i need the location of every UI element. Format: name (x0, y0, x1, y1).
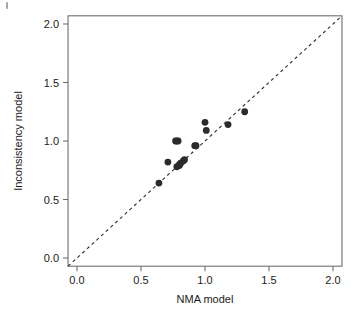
x-tick-label: 0.5 (133, 274, 148, 286)
plot-background (0, 0, 363, 312)
x-tick-label: 0.0 (69, 274, 84, 286)
scatter-plot-figure: 0.00.51.01.52.0 0.00.51.01.52.0 NMA mode… (0, 0, 363, 312)
x-tick-label: 1.0 (197, 274, 212, 286)
data-point (203, 127, 210, 134)
data-point (225, 121, 232, 128)
scan-artifact-mark (6, 2, 8, 9)
data-point (164, 159, 171, 166)
y-tick-label: 2.0 (44, 18, 59, 30)
data-point (175, 138, 182, 145)
x-axis-title: NMA model (177, 293, 234, 305)
y-tick-label: 0.5 (44, 194, 59, 206)
data-point (181, 156, 188, 163)
y-tick-label: 0.0 (44, 252, 59, 264)
y-tick-label: 1.0 (44, 135, 59, 147)
y-axis-title: Inconsistency model (12, 91, 24, 191)
x-tick-label: 1.5 (261, 274, 276, 286)
data-point (241, 108, 248, 115)
data-point (193, 142, 200, 149)
data-point (202, 119, 209, 126)
data-point (156, 180, 163, 187)
x-tick-label: 2.0 (325, 274, 340, 286)
plot-canvas: 0.00.51.01.52.0 0.00.51.01.52.0 NMA mode… (0, 0, 363, 312)
y-tick-label: 1.5 (44, 77, 59, 89)
